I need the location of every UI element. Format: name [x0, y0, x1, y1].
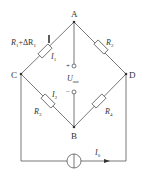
node-a-dot [73, 21, 76, 24]
node-b-dot [73, 126, 76, 129]
label-i0: I0 [94, 148, 101, 158]
bridge-circuit: A C D B R1+ΔR1 R2 R3 R4 I1 I2 I0 + − Uou… [0, 0, 147, 177]
label-i1: I1 [50, 52, 57, 62]
label-uout: Uout [67, 74, 79, 84]
label-node-a: A [71, 9, 78, 19]
node-d-dot [125, 73, 128, 76]
terminal-plus [72, 64, 76, 68]
label-r4: R4 [104, 107, 113, 117]
terminal-minus [72, 90, 76, 94]
label-i2: I2 [51, 90, 58, 100]
resistor-r4 [92, 94, 106, 108]
label-node-c: C [11, 70, 17, 80]
label-r3: R3 [33, 107, 42, 117]
label-minus: − [66, 88, 70, 96]
wire-right-loop [81, 74, 126, 161]
label-node-b: B [71, 131, 77, 141]
node-c-dot [20, 73, 23, 76]
resistor-r1 [38, 44, 52, 58]
label-r1: R1+ΔR1 [10, 38, 36, 48]
label-plus: + [66, 62, 70, 70]
label-r2: R2 [105, 38, 114, 48]
wire-left-loop [21, 74, 67, 161]
current-arrow-icon [104, 159, 110, 163]
label-node-d: D [129, 70, 136, 80]
